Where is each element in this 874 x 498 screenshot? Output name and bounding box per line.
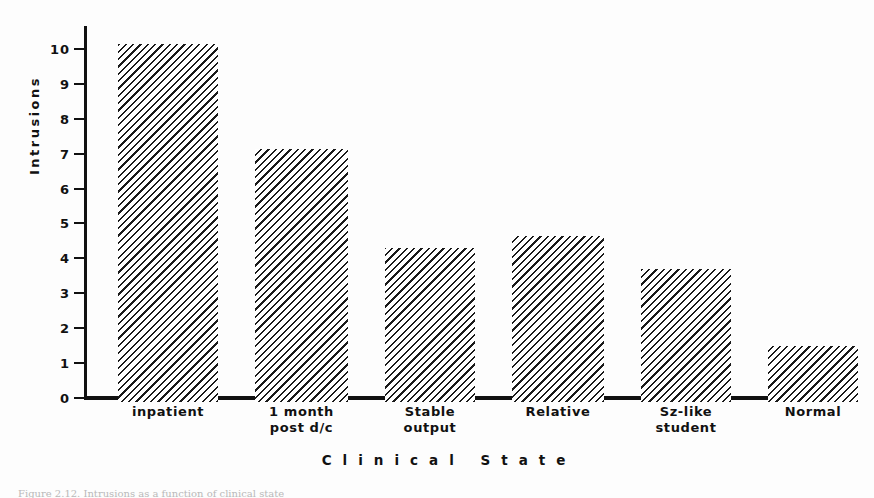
plot-area (84, 28, 870, 400)
figure-caption: Figure 2.12. Intrusions as a function of… (18, 488, 284, 498)
y-tick-label-9: 9 (60, 77, 70, 90)
x-category-label: inpatient (94, 404, 242, 420)
y-tick-label-0: 0 (60, 392, 70, 405)
bar (768, 346, 858, 402)
y-tick-label-8: 8 (60, 112, 70, 125)
bar (512, 236, 604, 402)
y-tick-label-1: 1 (60, 357, 70, 370)
y-tick-label-3: 3 (60, 287, 70, 300)
figure-canvas: Intrusions 012345678910 inpatient1 month… (0, 0, 874, 498)
x-category-label: Normal (744, 404, 874, 420)
x-category-label: Relative (488, 404, 628, 420)
y-tick-label-10: 10 (50, 42, 70, 55)
bar (385, 248, 475, 402)
x-category-label: 1 month post d/c (231, 404, 372, 436)
y-tick-label-2: 2 (60, 322, 70, 335)
bar (118, 44, 218, 402)
y-tick-label-6: 6 (60, 182, 70, 195)
y-axis-title: Intrusions (27, 46, 42, 206)
y-tick-label-7: 7 (60, 147, 70, 160)
x-axis-title: Clinical State (0, 452, 874, 468)
bar (255, 149, 348, 402)
x-category-label: Sz-like student (617, 404, 755, 436)
y-tick-label-4: 4 (60, 252, 70, 265)
y-tick-label-5: 5 (60, 217, 70, 230)
bar (641, 269, 731, 402)
x-category-label: Stable output (361, 404, 499, 436)
